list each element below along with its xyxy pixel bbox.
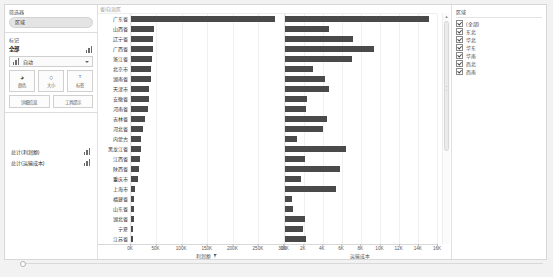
- bar-mark[interactable]: [131, 76, 151, 82]
- bar-mark[interactable]: [131, 176, 138, 182]
- bar-mark[interactable]: [131, 36, 153, 42]
- bar-mark[interactable]: [131, 16, 275, 22]
- bar-mark[interactable]: [285, 36, 354, 42]
- bar-mark[interactable]: [285, 16, 430, 22]
- bar-mark[interactable]: [285, 176, 301, 182]
- row-label[interactable]: 天津市: [98, 84, 130, 94]
- bar-mark[interactable]: [285, 116, 328, 122]
- bar-mark[interactable]: [131, 46, 153, 52]
- checkbox-icon[interactable]: [456, 68, 463, 75]
- checkbox-icon[interactable]: [456, 44, 463, 51]
- bar-mark[interactable]: [131, 196, 134, 202]
- row-label[interactable]: 陕西省: [98, 164, 130, 174]
- bar-row: [285, 14, 438, 24]
- bar-mark[interactable]: [285, 136, 297, 142]
- row-label[interactable]: 河南省: [98, 104, 130, 114]
- row-label[interactable]: 吉林省: [98, 114, 130, 124]
- checkbox-icon[interactable]: [456, 28, 463, 35]
- bottom-scroll-strip[interactable]: [4, 260, 545, 269]
- bar-mark[interactable]: [131, 146, 141, 152]
- bar-mark[interactable]: [285, 196, 293, 202]
- row-label[interactable]: 黑龙江省: [98, 144, 130, 154]
- checkbox-icon[interactable]: [456, 20, 463, 27]
- row-label[interactable]: 辽宁省: [98, 34, 130, 44]
- bar-mark[interactable]: [131, 136, 141, 142]
- bar-mark[interactable]: [285, 146, 347, 152]
- marks-size-button[interactable]: ○ 大小: [38, 70, 64, 92]
- bar-mark[interactable]: [131, 156, 140, 162]
- row-label[interactable]: 内蒙古: [98, 134, 130, 144]
- sort-descending-icon[interactable]: [213, 254, 217, 258]
- bar-mark[interactable]: [285, 206, 294, 212]
- region-filter-item[interactable]: 华东: [456, 44, 542, 52]
- checkbox-icon[interactable]: [456, 60, 463, 67]
- scrollbar-thumb[interactable]: [444, 21, 449, 151]
- bar-mark[interactable]: [285, 216, 306, 222]
- bar-mark[interactable]: [285, 96, 308, 102]
- bar-mark[interactable]: [285, 56, 353, 62]
- row-label[interactable]: 安徽省: [98, 94, 130, 104]
- row-label[interactable]: 广东省: [98, 14, 130, 24]
- region-filter-item[interactable]: 华北: [456, 36, 542, 44]
- bar-mark[interactable]: [131, 56, 152, 62]
- region-filter-item[interactable]: 西北: [456, 60, 542, 68]
- bar-mark[interactable]: [131, 206, 134, 212]
- bar-mark[interactable]: [131, 116, 145, 122]
- marks-detail-shelf[interactable]: 详细信息: [9, 95, 50, 108]
- row-label[interactable]: 上海市: [98, 184, 130, 194]
- row-label[interactable]: 江苏省: [98, 234, 130, 244]
- bar-mark[interactable]: [131, 26, 154, 32]
- bar-mark[interactable]: [285, 26, 330, 32]
- bar-mark[interactable]: [285, 166, 340, 172]
- measure-pill-shipping[interactable]: 总计(运输成本): [9, 158, 93, 167]
- bar-mark[interactable]: [285, 76, 325, 82]
- bar-mark[interactable]: [131, 186, 135, 192]
- bar-mark[interactable]: [285, 46, 375, 52]
- row-label[interactable]: 湖北省: [98, 214, 130, 224]
- row-label[interactable]: 北京市: [98, 64, 130, 74]
- row-label[interactable]: 河北省: [98, 124, 130, 134]
- region-filter-item[interactable]: 西南: [456, 68, 542, 76]
- marks-all-row[interactable]: 全部: [9, 45, 93, 53]
- bar-mark[interactable]: [131, 96, 149, 102]
- row-label[interactable]: 湖南省: [98, 74, 130, 84]
- scroll-knob[interactable]: [20, 261, 26, 267]
- marks-label-button[interactable]: ᵀ 标签: [67, 70, 93, 92]
- bar-mark[interactable]: [285, 66, 314, 72]
- bar-mark[interactable]: [131, 226, 133, 232]
- checkbox-icon[interactable]: [456, 52, 463, 59]
- filter-pill-region[interactable]: 区域: [9, 17, 93, 28]
- region-filter-item[interactable]: (全部): [456, 20, 542, 28]
- region-filter-item[interactable]: 华南: [456, 52, 542, 60]
- checkbox-icon[interactable]: [456, 36, 463, 43]
- bar-mark[interactable]: [131, 216, 134, 222]
- measure-pill-profit[interactable]: 总计(利润额): [9, 147, 93, 156]
- row-label[interactable]: 福建省: [98, 194, 130, 204]
- bar-mark[interactable]: [285, 236, 307, 242]
- bar-mark[interactable]: [131, 166, 139, 172]
- row-label[interactable]: 山东省: [98, 204, 130, 214]
- bar-mark[interactable]: [131, 236, 133, 242]
- row-label[interactable]: 浙江省: [98, 54, 130, 64]
- bar-mark[interactable]: [285, 106, 307, 112]
- row-label[interactable]: 山西省: [98, 24, 130, 34]
- bar-mark[interactable]: [285, 156, 305, 162]
- marks-color-button[interactable]: ◕ 颜色: [9, 70, 35, 92]
- row-label[interactable]: 重庆市: [98, 174, 130, 184]
- bar-mark[interactable]: [131, 66, 151, 72]
- row-label[interactable]: 宁夏: [98, 224, 130, 234]
- bar-mark[interactable]: [131, 106, 148, 112]
- marks-tooltip-shelf[interactable]: 工具提示: [53, 95, 94, 108]
- bar-mark[interactable]: [285, 186, 336, 192]
- vertical-scrollbar[interactable]: ▲: [442, 13, 450, 244]
- row-label[interactable]: 江西省: [98, 154, 130, 164]
- bar-mark[interactable]: [285, 226, 303, 232]
- row-label[interactable]: 广西省: [98, 44, 130, 54]
- bar-mark[interactable]: [285, 86, 330, 92]
- mark-type-select[interactable]: 自动: [9, 56, 93, 67]
- bar-mark[interactable]: [131, 126, 143, 132]
- scroll-up-icon[interactable]: ▲: [443, 13, 450, 19]
- region-filter-item[interactable]: 东北: [456, 28, 542, 36]
- bar-mark[interactable]: [131, 86, 149, 92]
- bar-mark[interactable]: [285, 126, 323, 132]
